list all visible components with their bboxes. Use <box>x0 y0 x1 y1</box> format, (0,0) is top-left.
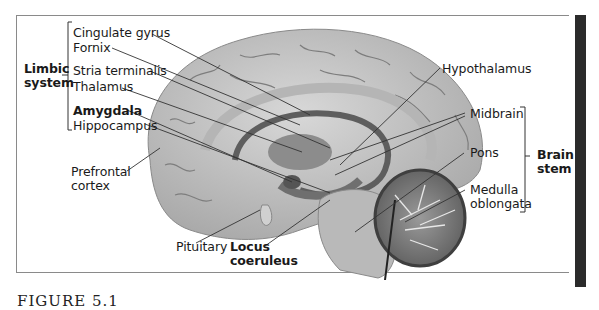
label-thalamus: Thalamus <box>73 80 133 94</box>
medulla-line2: oblongata <box>470 197 532 211</box>
prefrontal-line1: Prefrontal <box>71 165 131 179</box>
limbic-system-line2: system <box>24 76 74 90</box>
brain-stem-label: Brain stem <box>537 148 574 176</box>
locus-line1: Locus <box>230 240 298 254</box>
label-hippocampus: Hippocampus <box>73 119 157 133</box>
pituitary-shape <box>260 205 271 225</box>
figure-caption: FIGURE 5.1 <box>17 292 119 310</box>
locus-line2: coeruleus <box>230 254 298 268</box>
label-medulla-oblongata: Medulla oblongata <box>470 183 532 211</box>
brain-stem-line1: Brain <box>537 148 574 162</box>
brain-stem-line2: stem <box>537 162 574 176</box>
label-fornix: Fornix <box>73 41 111 55</box>
label-pituitary: Pituitary <box>176 240 227 254</box>
label-midbrain: Midbrain <box>470 107 524 121</box>
label-stria-terminalis: Stria terminalis <box>73 64 167 78</box>
medulla-line1: Medulla <box>470 183 532 197</box>
label-amygdala: Amygdala <box>73 104 142 118</box>
label-cingulate-gyrus: Cingulate gyrus <box>73 26 170 40</box>
label-hypothalamus: Hypothalamus <box>442 62 531 76</box>
limbic-system-label: Limbic system <box>24 62 74 90</box>
label-pons: Pons <box>470 146 499 160</box>
limbic-system-line1: Limbic <box>24 62 74 76</box>
label-prefrontal-cortex: Prefrontal cortex <box>71 165 131 193</box>
label-locus-coeruleus: Locus coeruleus <box>230 240 298 268</box>
thalamus-shape <box>268 134 332 170</box>
prefrontal-line2: cortex <box>71 179 131 193</box>
